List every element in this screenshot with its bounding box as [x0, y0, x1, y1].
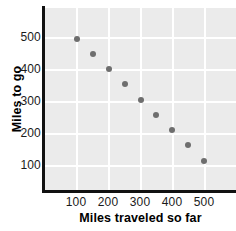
- data-point: [122, 81, 128, 87]
- data-point: [138, 97, 144, 103]
- gridline-vertical: [108, 8, 110, 191]
- gridline-horizontal: [45, 133, 236, 135]
- x-tick-label: 500: [184, 195, 224, 209]
- x-axis-title: Miles traveled so far: [45, 211, 236, 225]
- data-point: [185, 142, 191, 148]
- gridline-horizontal: [45, 165, 236, 167]
- gridline-vertical: [172, 8, 174, 191]
- gridline-horizontal: [45, 69, 236, 71]
- y-axis-line: [42, 6, 45, 193]
- scatter-chart: 500 400 300 200 100 100 200 300 400 500 …: [0, 0, 236, 231]
- gridline-vertical: [204, 8, 206, 191]
- data-point: [106, 66, 112, 72]
- plot-area: [45, 8, 236, 191]
- y-tick-label: 500: [1, 31, 41, 43]
- y-tick-label: 100: [1, 159, 41, 171]
- data-point: [90, 51, 96, 57]
- data-point: [74, 36, 80, 42]
- y-axis-title: Miles to go: [10, 44, 24, 154]
- data-point: [153, 112, 159, 118]
- data-point: [201, 158, 207, 164]
- x-axis-line: [42, 190, 236, 193]
